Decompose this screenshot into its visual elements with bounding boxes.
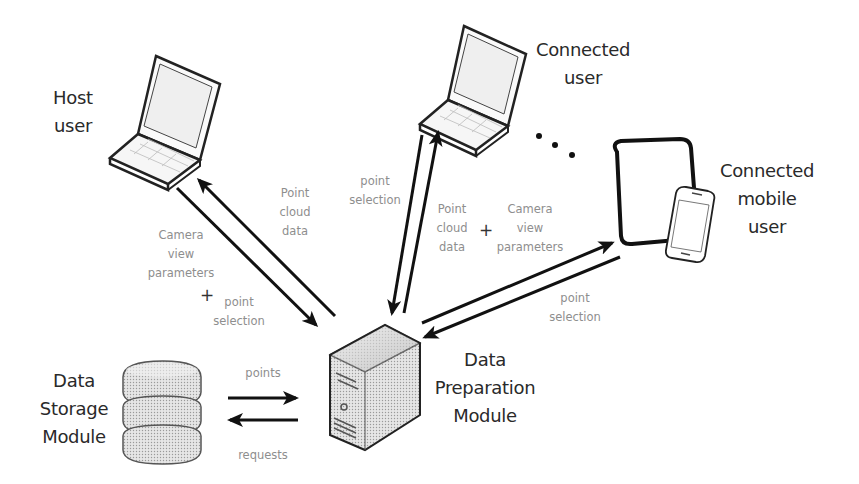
edge-label-line: cloud bbox=[430, 219, 474, 238]
edge-label-line: parameters bbox=[490, 238, 570, 257]
edge-label-line: parameters bbox=[136, 264, 226, 283]
edge-label-line: point bbox=[340, 172, 410, 191]
database-icon bbox=[123, 361, 201, 464]
node-data-preparation-module: Data Preparation Module bbox=[428, 346, 542, 430]
server-icon bbox=[330, 325, 420, 450]
node-connected-user: Connected user bbox=[528, 36, 638, 92]
node-label-line: Storage bbox=[32, 395, 116, 423]
arrow-connected-to-server bbox=[392, 135, 422, 313]
node-label-line: mobile bbox=[712, 185, 822, 213]
edge-label-camera-view-parameters: Camera view parameters bbox=[490, 200, 570, 257]
node-label-line: Module bbox=[32, 423, 116, 451]
mobile-devices-icon bbox=[615, 139, 715, 262]
node-host-user: Host user bbox=[38, 84, 108, 140]
edge-label-point-selection: point selection bbox=[206, 293, 272, 331]
edge-label-line: Camera bbox=[490, 200, 570, 219]
node-connected-mobile-user: Connected mobile user bbox=[712, 157, 822, 241]
edge-label-line: requests bbox=[230, 446, 296, 465]
edge-label-line: Point bbox=[430, 200, 474, 219]
edge-label-points: points bbox=[236, 364, 290, 383]
edge-label-line: data bbox=[270, 222, 320, 241]
architecture-diagram: Host user Connected user Connected mobil… bbox=[0, 0, 859, 484]
host-laptop-icon bbox=[110, 56, 220, 190]
edge-label-line: point bbox=[206, 293, 272, 312]
edge-label-line: Camera bbox=[136, 226, 226, 245]
node-label-line: user bbox=[712, 213, 822, 241]
node-label-line: Connected bbox=[528, 36, 638, 64]
edge-label-point-cloud-data: Point cloud data bbox=[430, 200, 474, 257]
edge-label-point-cloud-data: Point cloud data bbox=[270, 184, 320, 241]
node-label-line: Preparation bbox=[428, 374, 542, 402]
edge-label-line: selection bbox=[206, 312, 272, 331]
edge-label-line: points bbox=[236, 364, 290, 383]
node-label-line: Data bbox=[428, 346, 542, 374]
node-label-line: Connected bbox=[712, 157, 822, 185]
edge-label-line: view bbox=[490, 219, 570, 238]
edge-label-line: selection bbox=[540, 308, 610, 327]
edge-label-line: data bbox=[430, 238, 474, 257]
node-data-storage-module: Data Storage Module bbox=[32, 367, 116, 451]
node-label-line: user bbox=[38, 112, 108, 140]
edge-label-line: view bbox=[136, 245, 226, 264]
node-label-line: Host bbox=[38, 84, 108, 112]
node-label-line: Data bbox=[32, 367, 116, 395]
edge-label-line: point bbox=[540, 289, 610, 308]
edge-label-line: Point bbox=[270, 184, 320, 203]
edge-label-line: selection bbox=[340, 191, 410, 210]
edge-label-point-selection: point selection bbox=[340, 172, 410, 210]
edge-label-line: cloud bbox=[270, 203, 320, 222]
more-users-ellipsis bbox=[536, 133, 575, 158]
node-label-line: Module bbox=[428, 402, 542, 430]
edge-label-requests: requests bbox=[230, 446, 296, 465]
edge-label-point-selection: point selection bbox=[540, 289, 610, 327]
edge-label-camera-view-parameters: Camera view parameters bbox=[136, 226, 226, 283]
node-label-line: user bbox=[528, 64, 638, 92]
